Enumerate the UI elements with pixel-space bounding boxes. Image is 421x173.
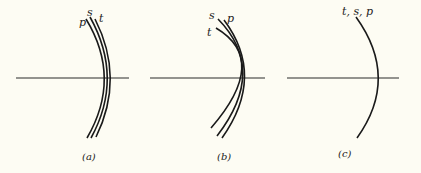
label-t: t bbox=[99, 12, 104, 25]
label-s: s bbox=[209, 9, 215, 22]
panel-a: p s t (a) bbox=[16, 6, 129, 162]
panel-c: t, s, p (c) bbox=[287, 5, 399, 159]
label-s: s bbox=[87, 6, 93, 19]
label-tsp: t, s, p bbox=[342, 5, 373, 18]
label-p: p bbox=[79, 16, 86, 29]
label-p: p bbox=[227, 12, 234, 25]
caption-a: (a) bbox=[82, 151, 96, 162]
caption-c: (c) bbox=[338, 148, 352, 159]
label-t: t bbox=[207, 26, 212, 39]
figure-canvas: p s t (a) s p t (b) t, s, p (c) bbox=[0, 0, 421, 173]
panel-b: s p t (b) bbox=[150, 9, 265, 162]
caption-b: (b) bbox=[217, 151, 231, 162]
